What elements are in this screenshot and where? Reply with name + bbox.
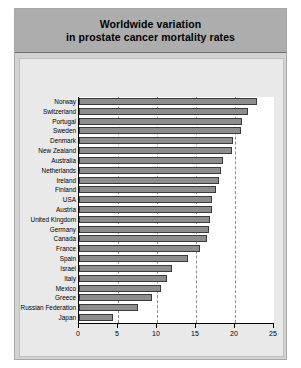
bar-row	[79, 303, 274, 313]
x-tick-25	[273, 324, 274, 328]
category-label-australia: Australia	[51, 156, 76, 166]
bar-spain	[79, 255, 188, 262]
bar-row	[79, 146, 274, 156]
bar-finland	[79, 186, 216, 193]
bar-row	[79, 274, 274, 284]
chart-title-line-1: Worldwide variation	[100, 18, 201, 31]
bar-row	[79, 156, 274, 166]
category-label-netherlands: Netherlands	[42, 166, 76, 176]
bar-greece	[79, 294, 152, 301]
x-axis-ticks	[78, 324, 273, 329]
bar-row	[79, 195, 274, 205]
bar-row	[79, 234, 274, 244]
category-label-portugal: Portugal	[52, 117, 76, 127]
bar-usa	[79, 196, 212, 203]
bar-ireland	[79, 177, 219, 184]
bar-mexico	[79, 285, 161, 292]
bar-row	[79, 97, 274, 107]
bar-united-kingdom	[79, 216, 210, 223]
category-label-germany: Germany	[50, 225, 76, 235]
bar-row	[79, 244, 274, 254]
category-label-sweden: Sweden	[53, 126, 76, 136]
bar-row	[79, 166, 274, 176]
bar-australia	[79, 157, 223, 164]
bar-france	[79, 245, 200, 252]
bar-row	[79, 107, 274, 117]
category-label-japan: Japan	[59, 313, 76, 323]
bar-italy	[79, 275, 167, 282]
bar-japan	[79, 314, 113, 321]
bar-switzerland	[79, 108, 248, 115]
x-tick-label-25: 25	[269, 330, 277, 337]
bar-netherlands	[79, 167, 221, 174]
plot-area	[78, 97, 274, 324]
bar-row	[79, 117, 274, 127]
bar-row	[79, 313, 274, 323]
bar-row	[79, 254, 274, 264]
chart-title-line-2: in prostate cancer mortality rates	[66, 31, 235, 44]
bar-row	[79, 176, 274, 186]
x-tick-label-0: 0	[76, 330, 80, 337]
bar-israel	[79, 265, 172, 272]
category-label-canada: Canada	[54, 234, 76, 244]
bar-row	[79, 185, 274, 195]
x-tick-0	[78, 324, 79, 328]
bar-row	[79, 205, 274, 215]
category-label-ireland: Ireland	[56, 176, 76, 186]
x-tick-20	[234, 324, 235, 328]
bar-row	[79, 264, 274, 274]
chart-title-bar: Worldwide variation in prostate cancer m…	[15, 9, 286, 53]
bar-row	[79, 126, 274, 136]
x-tick-10	[156, 324, 157, 328]
category-label-denmark: Denmark	[50, 136, 76, 146]
bar-sweden	[79, 127, 241, 134]
category-label-russian-federation: Russian Federation	[21, 303, 76, 313]
category-label-switzerland: Switzerland	[43, 107, 76, 117]
x-tick-label-5: 5	[115, 330, 119, 337]
x-tick-5	[117, 324, 118, 328]
category-label-new-zealand: New Zealand	[38, 146, 76, 156]
bar-row	[79, 215, 274, 225]
bar-row	[79, 293, 274, 303]
category-axis-labels: NorwaySwitzerlandPortugalSwedenDenmarkNe…	[20, 97, 78, 323]
bar-row	[79, 284, 274, 294]
bar-canada	[79, 235, 207, 242]
category-label-finland: Finland	[55, 185, 76, 195]
bar-row	[79, 225, 274, 235]
bar-germany	[79, 226, 209, 233]
bar-portugal	[79, 118, 242, 125]
category-label-usa: USA	[63, 195, 76, 205]
x-tick-label-20: 20	[230, 330, 238, 337]
bar-row	[79, 136, 274, 146]
category-label-spain: Spain	[60, 254, 76, 264]
category-label-france: France	[56, 244, 76, 254]
category-label-mexico: Mexico	[56, 284, 76, 294]
x-tick-15	[195, 324, 196, 328]
bar-denmark	[79, 137, 233, 144]
bar-norway	[79, 98, 257, 105]
plot-panel: NorwaySwitzerlandPortugalSwedenDenmarkNe…	[19, 58, 284, 357]
category-label-italy: Italy	[64, 274, 76, 284]
category-label-united-kingdom: United Kingdom	[31, 215, 76, 225]
bar-russian-federation	[79, 304, 138, 311]
x-tick-label-15: 15	[191, 330, 199, 337]
x-axis-tick-labels: 0510152025	[78, 330, 273, 342]
bar-new-zealand	[79, 147, 232, 154]
bar-austria	[79, 206, 212, 213]
x-tick-label-10: 10	[152, 330, 160, 337]
category-label-norway: Norway	[54, 97, 76, 107]
category-label-israel: Israel	[60, 264, 76, 274]
category-label-austria: Austria	[56, 205, 76, 215]
chart-figure: Worldwide variation in prostate cancer m…	[14, 8, 287, 360]
category-label-greece: Greece	[55, 293, 76, 303]
